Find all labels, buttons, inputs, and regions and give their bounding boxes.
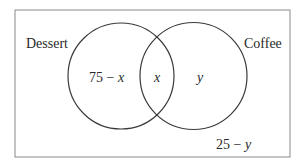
intersection-region-label: x [153, 70, 161, 85]
dessert-only-region-label: 75 − x [89, 70, 125, 85]
coffee-set-label: Coffee [244, 36, 282, 51]
universe-frame [15, 10, 290, 157]
outside-region-label: 25 − y [216, 137, 252, 152]
venn-diagram: Dessert Coffee 75 − x x y 25 − y [0, 0, 301, 166]
dessert-set-label: Dessert [26, 36, 68, 51]
coffee-only-region-label: y [195, 70, 204, 85]
